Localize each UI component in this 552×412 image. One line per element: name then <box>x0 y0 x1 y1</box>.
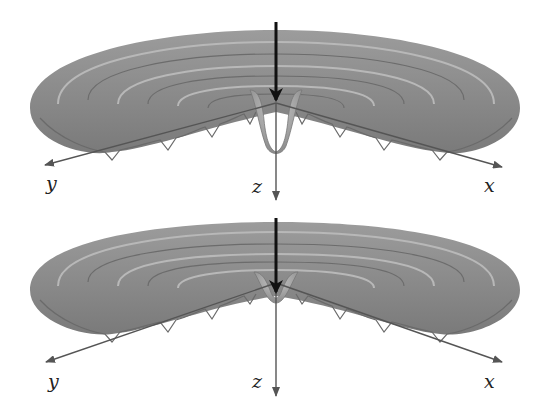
x-axis-label-top: x <box>484 174 495 196</box>
diagram-canvas: y z x y z x <box>0 0 552 412</box>
x-axis-label-bottom: x <box>484 370 495 392</box>
z-axis-label-top: z <box>251 175 263 197</box>
y-axis-label-bottom: y <box>47 370 59 392</box>
z-axis-label-bottom: z <box>251 370 263 392</box>
surface-plot-top: y z x <box>30 22 520 200</box>
y-axis-label-top: y <box>45 172 57 194</box>
surface-plot-bottom: y z x <box>30 218 520 396</box>
